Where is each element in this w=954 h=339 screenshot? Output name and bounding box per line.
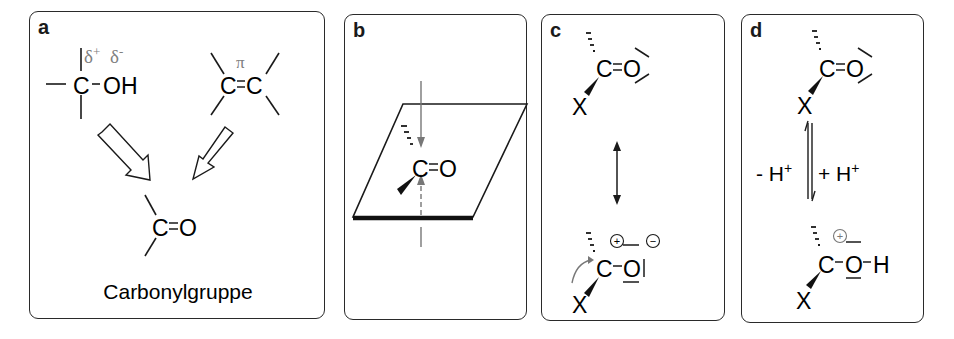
delta-plus: δ+ — [84, 44, 100, 67]
oxygen-top: O — [623, 56, 641, 82]
deprotonation-label: - H+ — [756, 160, 792, 185]
panel-d: d C O X - H+ + H+ — [741, 14, 924, 323]
carbon-top: C — [819, 56, 836, 82]
delta-minus: δ- — [110, 44, 123, 67]
svg-text:+: + — [837, 230, 843, 242]
panel-b-diagram: C O — [345, 15, 528, 321]
oxygen-top: O — [846, 56, 864, 82]
panel-c: c C O X — [541, 14, 725, 321]
alcohol-carbon: C — [73, 73, 90, 99]
resonance-structure-top: C O X — [572, 33, 649, 120]
protonated-carbonyl: + C O H X — [796, 227, 890, 314]
carbonyl-structure-top: C O X — [797, 31, 872, 119]
svg-text:+: + — [614, 235, 620, 247]
panel-a: a C OH δ+ δ- C C π — [29, 11, 325, 319]
oxygen-bottom: O — [845, 252, 863, 278]
hashed-bond — [401, 126, 413, 144]
carbon-bottom: C — [596, 256, 613, 282]
positive-charge: + — [611, 235, 624, 248]
attack-arrow-top — [417, 81, 425, 148]
carbonyl-oxygen: O — [439, 156, 457, 182]
alkene-carbon-left: C — [220, 73, 237, 99]
panel-b: b C O — [344, 14, 527, 320]
carbonyl-carbon: C — [412, 156, 429, 182]
hollow-arrow-left — [98, 124, 150, 180]
carbonyl-oxygen: O — [179, 215, 197, 241]
caption-carbonylgruppe: Carbonylgruppe — [103, 280, 252, 303]
hydroxyl-group: OH — [103, 73, 138, 99]
carbon-bottom: C — [818, 252, 835, 278]
alcohol-structure: C OH δ+ δ- — [46, 44, 138, 119]
hydrogen: H — [873, 252, 890, 278]
panel-a-diagram: C OH δ+ δ- C C π C — [30, 12, 326, 320]
carbonyl-carbon: C — [152, 215, 169, 241]
svg-text:−: − — [650, 235, 656, 247]
negative-charge: − — [647, 235, 660, 248]
carbonyl-structure: C O — [145, 195, 197, 256]
hollow-arrow-right — [193, 127, 233, 179]
resonance-structure-bottom: C O + − X — [572, 233, 660, 318]
substituent-x-top: X — [797, 93, 812, 119]
attack-arrow-bottom — [417, 174, 425, 247]
panel-c-diagram: C O X C O — [542, 15, 726, 322]
alkene-structure: C C π — [211, 53, 279, 115]
positive-charge: + — [834, 230, 847, 243]
alkene-carbon-right: C — [246, 73, 263, 99]
pi-label: π — [236, 53, 245, 72]
substituent-x-bottom: X — [572, 292, 587, 318]
carbon-top: C — [596, 56, 613, 82]
resonance-arrow — [613, 141, 621, 205]
oxygen-bottom: O — [623, 256, 641, 282]
substituent-x-top: X — [572, 94, 587, 120]
equilibrium-arrows — [805, 121, 815, 201]
panel-d-diagram: C O X - H+ + H+ + — [742, 15, 925, 324]
protonation-label: + H+ — [818, 160, 859, 185]
substituent-x-bottom: X — [796, 288, 811, 314]
